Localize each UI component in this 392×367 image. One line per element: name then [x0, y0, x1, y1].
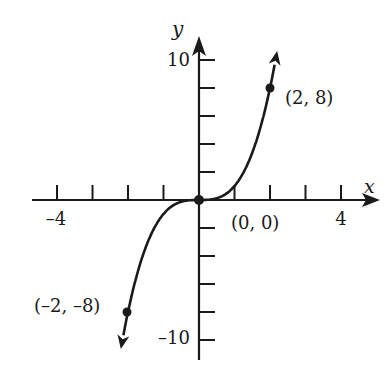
point-label-origin: (0, 0)	[231, 212, 279, 233]
point-label-2-8: (2, 8)	[285, 87, 333, 108]
curve-arrow-up-icon	[269, 51, 281, 66]
point-label-neg2-neg8: (–2, –8)	[34, 295, 100, 316]
curve-arrow-down-icon	[117, 334, 129, 349]
x-axis-label: x	[364, 175, 375, 197]
x-tick-label-neg4: –4	[46, 208, 66, 229]
y-tick-label-neg10: –10	[158, 327, 190, 348]
point-2-8	[266, 84, 275, 93]
y-tick-label-10: 10	[167, 49, 190, 70]
cubic-function-graph: x y –4 4 10 –10 (–2, –8) (0, 0) (2, 8)	[0, 0, 392, 367]
x-tick-label-4: 4	[335, 208, 346, 229]
point-origin	[194, 195, 204, 205]
y-axis-label: y	[171, 17, 184, 41]
point-neg2-neg8	[123, 308, 132, 317]
